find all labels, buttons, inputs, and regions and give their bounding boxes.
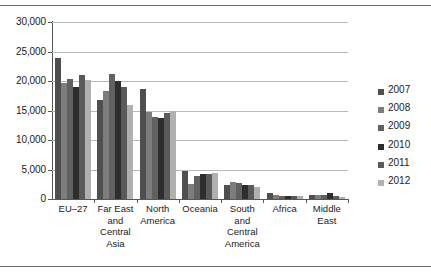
legend-item[interactable]: 2008 (378, 102, 431, 120)
category-label-line: Middle (302, 203, 352, 215)
bar-group (140, 22, 176, 199)
bar[interactable] (212, 173, 218, 199)
bar[interactable] (339, 197, 345, 199)
bar[interactable] (127, 105, 133, 199)
chart-legend: 200720082009201020112012 (378, 84, 431, 193)
legend-item[interactable]: 2009 (378, 120, 431, 138)
bar[interactable] (85, 80, 91, 199)
bar-group (309, 22, 345, 199)
plot-area (52, 22, 348, 199)
legend-swatch-icon (378, 144, 384, 150)
bar-group (182, 22, 218, 199)
y-axis-tick-label: 10,000 (16, 134, 46, 145)
bar-group (55, 22, 91, 199)
y-axis-tick (48, 170, 52, 171)
y-axis-tick (48, 22, 52, 23)
y-axis-tick-label: 20,000 (16, 75, 46, 86)
y-axis-tick (48, 199, 52, 200)
bar[interactable] (297, 196, 303, 199)
legend-label: 2010 (388, 139, 410, 150)
category-label-line: Central (217, 226, 267, 238)
x-axis-line (52, 199, 348, 200)
legend-swatch-icon (378, 162, 384, 168)
bar[interactable] (170, 111, 176, 200)
legend-label: 2008 (388, 102, 410, 113)
bar-group (97, 22, 133, 199)
y-axis-tick-label: 25,000 (16, 46, 46, 57)
legend-swatch-icon (378, 107, 384, 113)
x-axis-category-label: MiddleEast (302, 203, 352, 226)
x-axis-category-labels: EU–27Far EastandCentralAsiaNorthAmericaO… (52, 203, 348, 269)
legend-label: 2011 (388, 157, 410, 168)
y-axis-tick-label: 5,000 (21, 164, 46, 175)
legend-item[interactable]: 2011 (378, 157, 431, 175)
legend-label: 2012 (388, 175, 410, 186)
legend-label: 2009 (388, 120, 410, 131)
legend-item[interactable]: 2007 (378, 84, 431, 102)
y-axis-tick-label: 0 (41, 193, 46, 204)
chart-figure: 05,00010,00015,00020,00025,00030,000 EU–… (0, 0, 431, 272)
y-axis-tick (48, 52, 52, 53)
y-axis-tick-labels: 05,00010,00015,00020,00025,00030,000 (0, 22, 46, 199)
category-label-line: East (302, 215, 352, 227)
legend-swatch-icon (378, 125, 384, 131)
category-label-line: and (217, 215, 267, 227)
y-axis-tick (48, 81, 52, 82)
category-label-line: America (133, 215, 183, 227)
legend-swatch-icon (378, 180, 384, 186)
legend-label: 2007 (388, 84, 410, 95)
top-rule (0, 5, 431, 6)
legend-item[interactable]: 2010 (378, 139, 431, 157)
y-axis-tick-label: 15,000 (16, 105, 46, 116)
y-axis-tick-label: 30,000 (16, 16, 46, 27)
category-label-line: America (217, 238, 267, 250)
bar-group (224, 22, 260, 199)
y-axis-tick (48, 111, 52, 112)
bar[interactable] (254, 187, 260, 199)
legend-swatch-icon (378, 89, 384, 95)
y-axis-tick (48, 140, 52, 141)
bar-group (267, 22, 303, 199)
legend-item[interactable]: 2012 (378, 175, 431, 193)
category-label-line: Asia (90, 238, 140, 250)
category-label-line: Central (90, 226, 140, 238)
